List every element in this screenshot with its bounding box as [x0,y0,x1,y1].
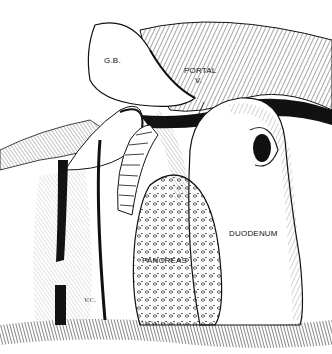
anatomy-drawing [0,0,332,354]
label-portal-v: V. [195,76,202,85]
label-gallbladder: G.B. [104,56,121,65]
label-pancreas: PANCREAS [142,256,187,265]
label-portal: PORTAL [184,66,216,75]
vena-cava [33,160,91,325]
illustration-canvas: G.B. PORTAL V. DUODENUM PANCREAS V.C. [0,0,332,354]
label-vc: V.C. [84,296,96,304]
label-duodenum: DUODENUM [229,229,278,238]
